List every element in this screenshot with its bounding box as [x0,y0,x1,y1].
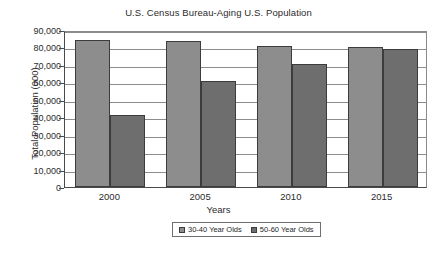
plot-area [64,31,427,188]
legend-item: 50-60 Year Olds [251,225,314,234]
bar [75,40,110,187]
bar [383,49,418,187]
bar [201,81,236,187]
legend-swatch-icon [251,227,257,233]
bar [257,46,292,187]
y-axis-tick-label: 30,000 [5,131,61,141]
y-axis-tick-label: 50,000 [5,96,61,106]
legend-label: 50-60 Year Olds [260,225,314,234]
x-axis-tick-label: 2015 [371,191,392,202]
gridline [65,32,426,33]
y-axis-tick-label: 0 [5,183,61,193]
chart-title: U.S. Census Bureau-Aging U.S. Population [0,7,437,18]
y-axis-tick-label: 10,000 [5,166,61,176]
legend-label: 30-40 Year Olds [188,225,242,234]
x-axis-title: Years [0,204,437,215]
y-axis-tick-mark [59,188,64,189]
bar [166,41,201,187]
y-axis-tick-label: 60,000 [5,78,61,88]
bar-chart: U.S. Census Bureau-Aging U.S. Population… [0,0,437,253]
bar [110,115,145,187]
y-axis-tick-label: 70,000 [5,61,61,71]
y-axis-tick-label: 90,000 [5,26,61,36]
x-axis-tick-label: 2010 [280,191,301,202]
x-axis-tick-label: 2005 [190,191,211,202]
y-axis-tick-label: 20,000 [5,148,61,158]
bar [292,64,327,187]
legend-swatch-icon [179,227,185,233]
chart-legend: 30-40 Year Olds50-60 Year Olds [172,222,321,237]
y-axis-tick-label: 40,000 [5,113,61,123]
legend-item: 30-40 Year Olds [179,225,242,234]
x-axis-tick-label: 2000 [99,191,120,202]
bar [348,47,383,187]
y-axis-tick-label: 80,000 [5,43,61,53]
